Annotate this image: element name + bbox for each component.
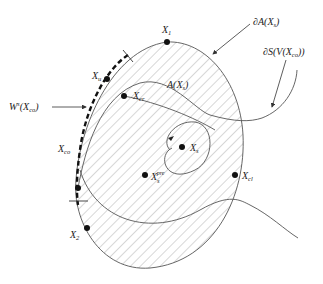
label-X2: X2 [69,229,80,241]
point-Xco [75,185,81,191]
point-X2 [84,225,90,231]
point-Xs-pre [142,172,148,178]
label-stable-manifold: Ws(Xco) [9,101,39,113]
point-Xu [104,76,110,82]
label-X1: X1 [161,24,171,36]
label-boundary-S: ∂S(V(Xco)) [263,46,305,58]
point-X1 [164,39,170,45]
arrow-boundary-S [272,60,286,107]
label-region-A: A(Xs) [166,79,189,91]
label-boundary-A: ∂A(Xs) [253,16,280,28]
arrow-boundary-A [213,24,250,54]
point-Xs [179,144,185,150]
label-Xu: Xu [91,70,102,82]
point-Xcl [232,172,238,178]
point-Xcr [121,93,127,99]
label-Xcl: Xcl [241,170,253,182]
label-Xco: Xco [57,143,71,155]
diagram-canvas: ∂A(Xs) ∂S(V(Xco)) A(Xs) Ws(Xco) X1 Xu Xc… [0,0,323,284]
